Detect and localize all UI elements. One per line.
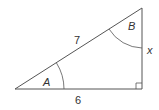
triangle-diagram: 7 6 x A B	[0, 0, 159, 110]
triangle	[15, 8, 142, 89]
angle-b-label: B	[128, 20, 135, 32]
hypotenuse-label: 7	[74, 34, 80, 46]
base-label: 6	[75, 94, 81, 106]
right-angle-marker	[136, 83, 142, 89]
side-x-label: x	[146, 44, 153, 56]
angle-a-arc	[57, 63, 65, 89]
angle-a-label: A	[42, 76, 50, 88]
angle-b-arc	[109, 29, 142, 48]
